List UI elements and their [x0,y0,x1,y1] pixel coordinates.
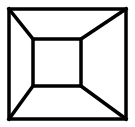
inner-square [33,39,81,86]
connector-bottom-right [81,86,126,119]
diagram-canvas [0,0,135,127]
connector-bottom-left [9,86,33,119]
connector-top-left [9,9,33,39]
outer-square [9,9,126,119]
connector-top-right [81,9,126,39]
